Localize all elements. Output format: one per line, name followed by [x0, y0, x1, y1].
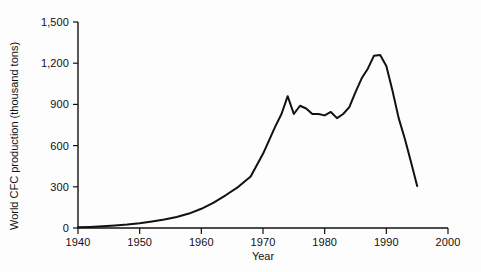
- chart-figure: 03006009001,2001,500 1940195019601970198…: [0, 0, 481, 272]
- y-axis-title: World CFC production (thousand tons): [8, 42, 20, 230]
- x-axis-tick-label: 1970: [251, 236, 276, 248]
- x-axis-title: Year: [252, 250, 274, 262]
- x-axis-tick-label: 1980: [312, 236, 337, 248]
- y-axis-tick-label: 1,500: [41, 16, 69, 28]
- y-axis-tick-label: 600: [50, 140, 69, 152]
- y-axis-ticks: [73, 22, 78, 228]
- x-axis-tick-label: 1940: [66, 236, 91, 248]
- data-series-line: [78, 55, 417, 227]
- y-axis-tick-label: 0: [63, 222, 69, 234]
- axis-lines: [78, 22, 448, 228]
- x-axis-tick-label: 1990: [374, 236, 399, 248]
- x-axis-tick-label: 2000: [436, 236, 461, 248]
- x-axis-tick-label: 1950: [127, 236, 152, 248]
- y-axis-tick-label: 1,200: [41, 57, 69, 69]
- y-axis-tick-label: 300: [50, 181, 69, 193]
- line-chart-plot: [0, 0, 481, 272]
- y-axis-tick-label: 900: [50, 98, 69, 110]
- x-axis-tick-label: 1960: [189, 236, 214, 248]
- x-axis-ticks: [78, 228, 448, 234]
